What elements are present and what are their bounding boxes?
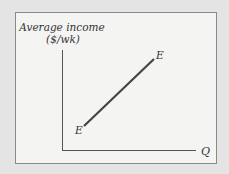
y-axis-title-line1: Average income	[18, 21, 104, 33]
x-axis-label: Q	[201, 145, 210, 158]
line-start-label: E	[74, 124, 83, 136]
y-axis-title-line2: ($/wk)	[46, 33, 80, 45]
chart-canvas: Average income ($/wk) Q E E	[0, 0, 229, 174]
series-line-e	[84, 59, 154, 126]
line-end-label: E	[155, 49, 164, 61]
